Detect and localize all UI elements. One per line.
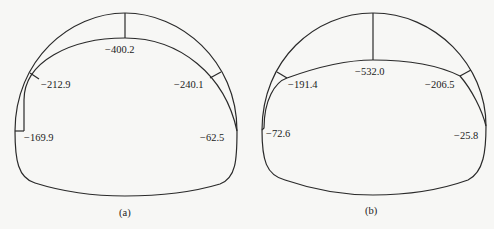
panel-b: −532.0 −191.4 −206.5 −72.6 −25.8 (b) bbox=[262, 13, 486, 217]
right-shoulder-value-a: −240.1 bbox=[174, 79, 204, 90]
right-foot-value-a: −62.5 bbox=[200, 132, 224, 143]
left-foot-value-a: −169.9 bbox=[24, 132, 54, 143]
left-shoulder-cut-b bbox=[277, 72, 287, 78]
crown-value-b: −532.0 bbox=[355, 66, 385, 77]
tunnel-diagram: −400.2 −212.9 −240.1 −169.9 −62.5 (a) −5… bbox=[0, 0, 494, 229]
left-shoulder-value-b: −191.4 bbox=[288, 79, 318, 90]
panel-a: −400.2 −212.9 −240.1 −169.9 −62.5 (a) bbox=[15, 13, 237, 219]
right-shoulder-cut-b bbox=[460, 70, 471, 76]
right-foot-value-b: −25.8 bbox=[454, 130, 478, 141]
caption-b: (b) bbox=[365, 205, 378, 217]
right-shoulder-cut-a bbox=[210, 72, 221, 78]
outer-lining-a bbox=[15, 13, 237, 131]
caption-a: (a) bbox=[119, 207, 131, 219]
invert-b bbox=[262, 126, 486, 195]
left-shoulder-value-a: −212.9 bbox=[41, 79, 71, 90]
crown-value-a: −400.2 bbox=[105, 44, 135, 55]
right-shoulder-value-b: −206.5 bbox=[425, 79, 455, 90]
left-foot-value-b: −72.6 bbox=[266, 128, 290, 139]
